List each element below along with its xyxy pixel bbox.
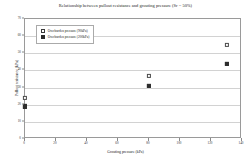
y-axis-tick-mark xyxy=(22,86,24,87)
gridline xyxy=(25,70,240,71)
chart-legend: Overburden pressure (90kPa)Overburden pr… xyxy=(36,25,94,44)
x-axis-tick-mark xyxy=(241,138,242,141)
y-axis-tick-label: 0 xyxy=(0,136,21,140)
y-axis-tick-mark xyxy=(22,120,24,121)
y-axis-tick-mark xyxy=(22,69,24,70)
x-axis-tick-mark xyxy=(210,138,211,141)
x-axis-tick-mark xyxy=(117,138,118,141)
y-axis-tick-label: 30 xyxy=(0,85,21,89)
legend-label: Overburden pressure (90kPa) xyxy=(48,29,88,33)
y-axis-tick-label: 60 xyxy=(0,33,21,37)
x-axis-tick-label: 140 xyxy=(239,141,244,145)
x-axis-tick-mark xyxy=(179,138,180,141)
y-axis-tick-mark xyxy=(22,35,24,36)
gridline xyxy=(25,105,240,106)
x-axis-label: Grouting pressure (kPa) xyxy=(0,150,251,154)
x-axis-tick-mark xyxy=(24,138,25,141)
y-axis-tick-label: 10 xyxy=(0,119,21,123)
gridline xyxy=(25,88,240,89)
x-axis-tick-mark xyxy=(55,138,56,141)
data-point-series-1 xyxy=(224,43,228,47)
y-axis-tick-mark xyxy=(22,103,24,104)
x-axis-tick-label: 120 xyxy=(208,141,213,145)
x-axis-tick-label: 80 xyxy=(146,141,149,145)
data-point-series-1 xyxy=(23,96,27,100)
x-axis-tick-label: 40 xyxy=(84,141,87,145)
data-point-series-2 xyxy=(23,104,27,108)
data-point-series-1 xyxy=(147,73,151,77)
gridline xyxy=(25,53,240,54)
gridline xyxy=(25,122,240,123)
y-axis-tick-mark xyxy=(22,18,24,19)
y-axis-tick-label: 70 xyxy=(0,16,21,20)
y-axis-tick-mark xyxy=(22,52,24,53)
x-axis-tick-label: 60 xyxy=(115,141,118,145)
y-axis-tick-label: 20 xyxy=(0,102,21,106)
x-axis-tick-label: 100 xyxy=(177,141,182,145)
legend-marker-icon xyxy=(41,29,45,33)
legend-label: Overburden pressure (200kPa) xyxy=(48,35,90,39)
x-axis-tick-label: 20 xyxy=(53,141,56,145)
legend-item-2[interactable]: Overburden pressure (200kPa) xyxy=(40,34,89,40)
x-axis-tick-mark xyxy=(148,138,149,141)
legend-marker-icon xyxy=(41,35,45,39)
x-axis-tick-label: 0 xyxy=(23,141,25,145)
x-axis-tick-mark xyxy=(86,138,87,141)
y-axis-tick-label: 40 xyxy=(0,67,21,71)
y-axis-tick-label: 50 xyxy=(0,50,21,54)
chart-figure: Relationship between pullout resistance … xyxy=(0,0,251,161)
data-point-series-2 xyxy=(224,61,228,65)
chart-title: Relationship between pullout resistance … xyxy=(0,3,251,9)
data-point-series-2 xyxy=(147,84,151,88)
